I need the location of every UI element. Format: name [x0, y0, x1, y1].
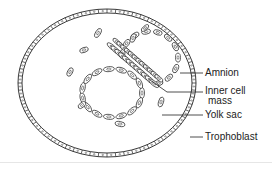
cell-membrane — [82, 73, 93, 85]
trophoblast-nucleus — [93, 11, 95, 12]
loose-cell — [129, 33, 137, 43]
cell-membrane — [93, 27, 102, 38]
trophoblast-nucleus — [48, 29, 50, 30]
trophoblast-nucleus — [188, 107, 190, 108]
trophoblast-cell-wall — [73, 15, 75, 19]
trophoblast-cell-wall — [20, 69, 24, 70]
trophoblast-cell-wall — [124, 152, 125, 156]
trophoblast-nucleus — [36, 125, 38, 126]
trophoblast-nucleus — [165, 136, 167, 137]
cell-membrane — [126, 105, 138, 116]
trophoblast-cell-wall — [178, 42, 181, 44]
trophoblast-cell-wall — [33, 42, 36, 44]
yolk-sac-cell — [115, 112, 127, 120]
trophoblast-cell-wall — [190, 97, 194, 98]
trophoblast-nucleus — [48, 136, 50, 137]
trophoblast-nucleus — [181, 45, 183, 46]
yolk-sac-cells — [79, 66, 144, 120]
yolk-sac-cell — [135, 77, 144, 89]
yolk-sac-cell — [103, 114, 114, 120]
trophoblast-cell-wall — [73, 148, 75, 152]
trophoblast-nucleus — [143, 147, 145, 148]
trophoblast-nucleus — [24, 107, 26, 108]
trophoblast-cell-wall — [38, 36, 41, 39]
loose-cell — [157, 97, 164, 108]
trophoblast-nucleus — [151, 144, 153, 145]
trophoblast-nucleus — [42, 34, 44, 35]
trophoblast-nucleus — [31, 45, 33, 46]
cell-membrane — [172, 63, 180, 73]
trophoblast-cell-wall — [132, 12, 133, 16]
trophoblast-cell-wall — [140, 148, 142, 152]
trophoblast-cell-wall — [81, 12, 82, 16]
trophoblast-nucleus — [143, 17, 145, 18]
trophoblast-nucleus — [185, 113, 187, 114]
label-yolk-sac: Yolk sac — [205, 110, 242, 120]
amnion-cell — [171, 42, 179, 52]
cell-membrane — [115, 121, 126, 128]
inner-cell-mass-cells — [106, 37, 164, 89]
cell-membrane — [164, 73, 174, 83]
trophoblast-nucleus — [119, 154, 121, 155]
trophoblast-cell-wall — [188, 62, 192, 63]
amnion-cell — [164, 73, 174, 83]
trophoblast-nucleus — [192, 93, 194, 94]
cell-membrane — [157, 97, 164, 108]
trophoblast-nucleus — [193, 86, 195, 87]
trophoblast-nucleus — [77, 15, 79, 16]
trophoblast-nucleus — [110, 154, 112, 155]
trophoblast-cell-wall — [124, 10, 125, 14]
amnion-cell — [172, 63, 180, 73]
trophoblast-nucleus — [69, 147, 71, 148]
amnion-cell — [153, 29, 163, 36]
trophoblast-cell-wall — [44, 132, 47, 135]
trophoblast-cell-wall — [161, 137, 164, 140]
loose-cell — [93, 27, 102, 38]
trophoblast-nucleus — [127, 13, 129, 14]
trophoblast-cell-wall — [173, 36, 176, 39]
cell-membrane — [91, 109, 103, 119]
trophoblast-nucleus — [110, 10, 112, 11]
cell-membrane — [66, 67, 74, 77]
trophoblast-nucleus — [171, 131, 173, 132]
trophoblast-cell-wall — [154, 21, 156, 24]
trophoblast-cell-wall — [182, 116, 186, 118]
trophoblast-nucleus — [85, 152, 87, 153]
cell-membrane — [129, 33, 137, 43]
loose-cell — [66, 67, 74, 77]
trophoblast-cell-wall — [33, 122, 36, 124]
trophoblast-nucleus — [69, 17, 71, 18]
yolk-sac-cell — [91, 109, 103, 119]
trophoblast-cell-wall — [178, 122, 181, 124]
trophoblast-cell-wall — [186, 55, 190, 57]
trophoblast-nucleus — [193, 79, 195, 80]
trophoblast-cell-wall — [190, 69, 194, 70]
trophoblast-cell-wall — [188, 103, 192, 104]
trophoblast-cell-wall — [25, 55, 29, 57]
trophoblast-nucleus — [151, 21, 153, 22]
cell-membrane — [140, 88, 145, 99]
trophoblast-nucleus — [102, 10, 104, 11]
trophoblast-cell-wall — [154, 141, 156, 144]
trophoblast-nucleus — [19, 86, 21, 87]
trophoblast-cell-wall — [22, 62, 26, 63]
trophoblast-ring — [18, 9, 196, 157]
trophoblast-nucleus — [24, 58, 26, 59]
trophoblast-nucleus — [20, 93, 22, 94]
yolk-sac-cell — [103, 66, 114, 72]
trophoblast-cell-wall — [65, 18, 67, 22]
trophoblast-cell-wall — [173, 127, 176, 130]
cell-membrane — [115, 112, 127, 120]
trophoblast-nucleus — [77, 150, 79, 151]
trophoblast-nucleus — [61, 144, 63, 145]
trophoblast-cell-wall — [147, 18, 149, 22]
trophoblast-nucleus — [176, 40, 178, 41]
trophoblast-cell-wall — [22, 103, 26, 104]
trophoblast-nucleus — [19, 79, 21, 80]
trophoblast-nucleus — [135, 150, 137, 151]
trophoblast-nucleus — [85, 13, 87, 14]
cell-membrane — [91, 67, 103, 77]
trophoblast-cell-wall — [29, 116, 33, 118]
trophoblast-cell-wall — [81, 150, 82, 154]
trophoblast-cell-wall — [29, 48, 33, 50]
